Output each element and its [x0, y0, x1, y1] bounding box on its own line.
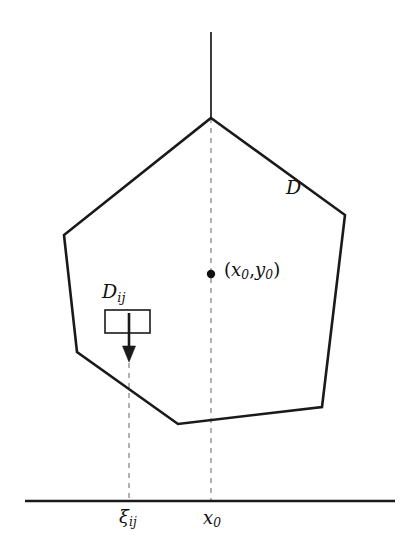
region-label-D: D [286, 178, 301, 197]
figure-container: D Dij (x0,y0) ξij x0 [0, 0, 417, 559]
point-label-x-base: x [231, 259, 241, 280]
figure-background [0, 0, 417, 559]
point-label-open-paren: ( [224, 259, 231, 280]
point-label-y-subscript: 0 [265, 268, 273, 282]
subregion-label-base: D [102, 280, 117, 302]
axis-label-xi-ij: ξij [119, 508, 137, 529]
subregion-label-subscript: ij [117, 290, 126, 305]
axis-label-x0-subscript: 0 [213, 516, 221, 530]
point-label-close-paren: ) [273, 259, 280, 280]
axis-label-x-0: x0 [203, 509, 221, 530]
subregion-label-Dij: Dij [102, 282, 126, 305]
point-label-x0-y0: (x0,y0) [224, 261, 280, 282]
region-label-D-text: D [286, 176, 301, 198]
diagram-canvas [0, 0, 417, 559]
point-label-x-subscript: 0 [241, 268, 249, 282]
point-label-y-base: y [255, 259, 265, 280]
axis-label-xi-base: ξ [119, 506, 129, 527]
axis-label-xi-subscript: ij [129, 515, 137, 529]
axis-label-x0-base: x [203, 507, 213, 528]
x0-y0-dot [207, 270, 215, 278]
